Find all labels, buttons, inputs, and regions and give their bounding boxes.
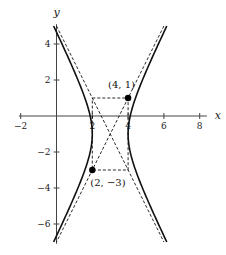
y-tick-label: 2 [45, 75, 51, 85]
y-tick-label: 4 [45, 39, 51, 49]
x-tick-label: −2 [14, 121, 27, 131]
x-tick-label: 6 [161, 121, 167, 131]
asymptotes [57, 26, 164, 242]
y-tick-label: −6 [37, 219, 51, 229]
point-label: (4, 1) [108, 79, 135, 90]
point-label: (2, −3) [90, 177, 125, 188]
x-axis: −22468 x [14, 109, 222, 131]
y-tick-label: −4 [37, 183, 51, 193]
x-axis-label: x [215, 109, 222, 122]
hyperbola-plot: −22468 x 42−2−4−6 y (4, 1)(2, −3) [0, 0, 226, 255]
y-axis: 42−2−4−6 y [37, 6, 60, 244]
y-axis-label: y [53, 6, 61, 19]
y-tick-label: −2 [37, 147, 50, 157]
x-tick-label: 8 [197, 121, 203, 131]
point-marker [125, 95, 131, 101]
point-marker [89, 167, 95, 173]
